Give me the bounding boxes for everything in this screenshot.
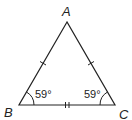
angle-label-c: 59° xyxy=(84,88,101,100)
angle-arc-b xyxy=(27,92,35,105)
triangle-svg: A B C 59° 59° xyxy=(0,0,132,120)
angle-arc-c xyxy=(100,92,108,105)
vertex-label-c: C xyxy=(119,107,129,120)
triangle-diagram: A B C 59° 59° xyxy=(0,0,132,120)
vertex-label-a: A xyxy=(61,4,71,19)
vertex-label-b: B xyxy=(4,105,13,120)
angle-label-b: 59° xyxy=(35,88,52,100)
